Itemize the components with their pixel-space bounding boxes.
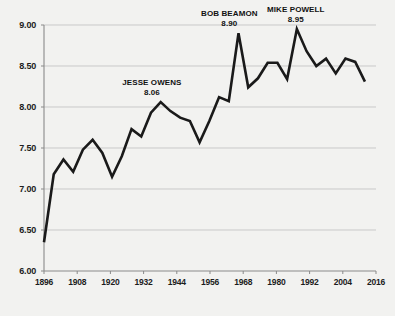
y-axis-label-8.50: 8.50 <box>2 62 36 71</box>
annotation-jesse-owens: JESSE OWENS8.06 <box>122 78 181 98</box>
annotation-bob-beamon: BOB BEAMON8.90 <box>201 9 258 29</box>
annotation-name: JESSE OWENS <box>122 78 181 88</box>
annotation-value: 8.90 <box>201 19 258 29</box>
data-series-line <box>44 29 365 242</box>
annotation-mike-powell: MIKE POWELL8.95 <box>267 5 325 25</box>
long-jump-progression-chart: 6.006.507.007.508.008.509.00 18961908192… <box>0 0 395 316</box>
x-axis-ticks-group <box>41 25 376 274</box>
y-axis-label-7.50: 7.50 <box>2 144 36 153</box>
annotation-value: 8.06 <box>122 88 181 98</box>
annotation-name: MIKE POWELL <box>267 5 325 15</box>
x-axis-label-2016: 2016 <box>356 278 395 287</box>
annotation-name: BOB BEAMON <box>201 9 258 19</box>
annotation-value: 8.95 <box>267 15 325 25</box>
y-axis-label-6.50: 6.50 <box>2 226 36 235</box>
y-axis-label-9.00: 9.00 <box>2 21 36 30</box>
gridlines-group <box>44 25 376 230</box>
y-axis-label-6.00: 6.00 <box>2 267 36 276</box>
chart-plot-area <box>0 0 395 316</box>
y-axis-label-7.00: 7.00 <box>2 185 36 194</box>
y-axis-label-8.00: 8.00 <box>2 103 36 112</box>
